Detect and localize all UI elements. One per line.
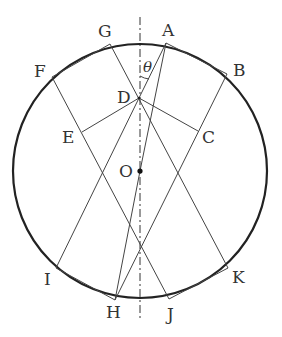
label-theta: θ	[143, 58, 152, 76]
angle-theta-arc	[140, 76, 149, 79]
label-D: D	[117, 87, 131, 107]
label-A: A	[161, 20, 175, 40]
label-K: K	[232, 267, 245, 287]
label-C: C	[202, 127, 215, 147]
label-E: E	[62, 127, 74, 147]
line-F-J	[52, 77, 169, 299]
point-D	[138, 97, 141, 100]
chord-JK	[169, 268, 228, 299]
label-F: F	[34, 61, 46, 81]
line-B-H	[115, 74, 227, 300]
line-D-C	[139, 98, 198, 131]
chord-IH	[56, 268, 115, 300]
line-O-H	[115, 171, 140, 300]
label-B: B	[233, 60, 246, 80]
chord-AB	[166, 43, 227, 74]
label-I: I	[44, 269, 51, 289]
label-O: O	[119, 161, 133, 181]
center-point-O	[137, 168, 142, 173]
label-G: G	[98, 21, 112, 41]
label-H: H	[106, 302, 121, 322]
label-J: J	[165, 304, 174, 324]
chord-FG	[52, 44, 110, 77]
geometry-diagram: G A F B θ D E C O I K H J	[0, 0, 282, 337]
